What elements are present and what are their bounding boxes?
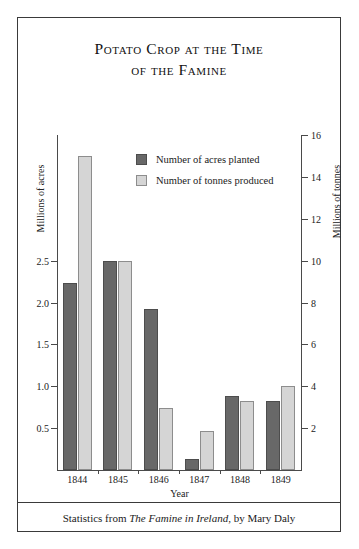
- x-axis-tick-label: 1847: [176, 474, 222, 485]
- x-axis-tick-label: 1849: [258, 474, 304, 485]
- y-axis-left-label: Millions of acres: [35, 144, 46, 254]
- y-axis-right-label: Millions of tonnes: [331, 147, 342, 257]
- bar-acres-planted[interactable]: [185, 459, 199, 470]
- y-axis-left-tick-mark: [51, 386, 57, 387]
- bar-tonnes-produced[interactable]: [200, 431, 214, 470]
- bar-acres-planted[interactable]: [63, 283, 77, 470]
- y-axis-right-tick-mark: [302, 303, 308, 304]
- y-axis-left-tick-mark: [51, 428, 57, 429]
- y-axis-left-tick-label: 1.5: [19, 339, 49, 350]
- y-axis-right-tick-label: 16: [311, 130, 341, 141]
- bar-tonnes-produced[interactable]: [240, 401, 254, 470]
- bar-tonnes-produced[interactable]: [281, 386, 295, 470]
- caption-prefix: Statistics from: [63, 512, 130, 524]
- x-axis-tick-label: 1846: [136, 474, 182, 485]
- bar-tonnes-produced[interactable]: [78, 156, 92, 470]
- x-axis-label: Year: [57, 488, 302, 499]
- legend-item-label: Number of tonnes produced: [156, 175, 274, 186]
- bar-acres-planted[interactable]: [144, 309, 158, 470]
- y-axis-left-tick-label: 2.0: [19, 297, 49, 308]
- legend-item[interactable]: Number of tonnes produced: [136, 175, 274, 186]
- y-axis-right-tick-mark: [302, 135, 308, 136]
- y-axis-right-tick-mark: [302, 219, 308, 220]
- y-axis-left-tick-label: 1.0: [19, 381, 49, 392]
- y-axis-right-tick-mark: [302, 386, 308, 387]
- y-axis-left-tick-mark: [51, 344, 57, 345]
- y-axis-left-tick-mark: [51, 261, 57, 262]
- y-axis-right-tick-mark: [302, 428, 308, 429]
- bar-group: [98, 135, 139, 470]
- y-axis-right-tick-label: 10: [311, 255, 341, 266]
- title-line-1: Potato Crop at the Time: [18, 38, 340, 59]
- figure-caption: Statistics from The Famine in Ireland, b…: [18, 512, 340, 524]
- bar-tonnes-produced[interactable]: [159, 408, 173, 470]
- legend-item-label: Number of acres planted: [156, 154, 260, 165]
- y-axis-right-tick-label: 2: [311, 423, 341, 434]
- title-line-2: of the Famine: [18, 59, 340, 80]
- chart-legend: Number of acres plantedNumber of tonnes …: [136, 154, 274, 196]
- bar-acres-planted[interactable]: [266, 401, 280, 471]
- legend-item[interactable]: Number of acres planted: [136, 154, 274, 165]
- x-axis-tick-label: 1844: [54, 474, 100, 485]
- y-axis-right-ticks: 246810121416: [311, 18, 341, 549]
- y-axis-right-tick-mark: [302, 344, 308, 345]
- caption-divider: [18, 502, 340, 503]
- y-axis-right-tick-mark: [302, 177, 308, 178]
- x-axis-tick-label: 1848: [217, 474, 263, 485]
- y-axis-left-tick-label: 0.5: [19, 423, 49, 434]
- y-axis-right-tick-label: 4: [311, 381, 341, 392]
- y-axis-left-ticks: 0.51.01.52.02.5: [18, 18, 49, 549]
- caption-book-title: The Famine in Ireland: [129, 512, 228, 524]
- y-axis-left-tick-label: 2.5: [19, 255, 49, 266]
- x-axis-tick-label: 1845: [95, 474, 141, 485]
- figure-frame: Potato Crop at the Time of the Famine 0.…: [17, 17, 341, 532]
- page-title: Potato Crop at the Time of the Famine: [18, 38, 340, 80]
- bar-acres-planted[interactable]: [225, 396, 239, 470]
- legend-swatch-icon: [136, 175, 147, 186]
- bar-group: [57, 135, 98, 470]
- legend-swatch-icon: [136, 154, 147, 165]
- y-axis-right-tick-label: 8: [311, 297, 341, 308]
- caption-suffix: , by Mary Daly: [228, 512, 295, 524]
- y-axis-right-tick-label: 6: [311, 339, 341, 350]
- y-axis-left-tick-mark: [51, 303, 57, 304]
- bar-tonnes-produced[interactable]: [118, 261, 132, 470]
- bar-acres-planted[interactable]: [103, 261, 117, 470]
- y-axis-right-tick-mark: [302, 261, 308, 262]
